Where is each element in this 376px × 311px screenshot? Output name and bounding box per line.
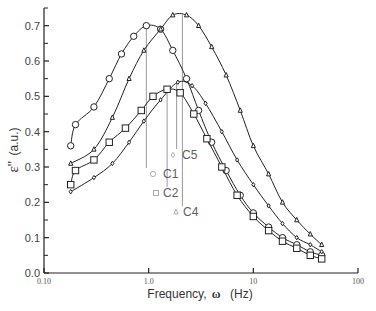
square-marker	[72, 167, 78, 173]
legend-item-c2: C2	[153, 186, 178, 200]
x-tick-label: 1.0	[144, 277, 154, 286]
x-tick-label: 10	[249, 277, 257, 286]
legend-label: C1	[163, 167, 179, 181]
square-marker	[250, 213, 256, 219]
y-tick-label: 0.2	[25, 196, 40, 208]
legend-label: C4	[183, 205, 199, 219]
y-ticks: 0.00.10.20.30.40.50.60.7	[25, 8, 49, 279]
circle-marker	[68, 143, 74, 149]
y-tick-label: 0.6	[25, 55, 40, 67]
diamond-marker	[171, 152, 175, 157]
circle-marker	[150, 171, 155, 176]
x-tick-label: 100	[352, 277, 364, 286]
square-marker	[164, 86, 170, 92]
triangle-marker	[174, 209, 178, 213]
circle-marker	[72, 121, 78, 127]
triangle-marker	[69, 161, 73, 165]
square-marker	[153, 190, 158, 195]
square-marker	[122, 125, 128, 131]
y-tick-label: 0.4	[25, 126, 40, 138]
x-axis-label-text: Frequency,	[147, 287, 206, 301]
legend-item-c5: C5	[171, 148, 197, 162]
triangle-marker	[171, 12, 175, 16]
triangle-marker	[251, 143, 255, 147]
square-marker	[319, 256, 325, 262]
y-tick-label: 0.1	[25, 232, 40, 244]
triangle-marker	[184, 12, 188, 16]
square-marker	[106, 139, 112, 145]
legend-item-c4: C4	[174, 205, 199, 219]
circle-marker	[106, 75, 112, 81]
diamond-marker	[309, 243, 312, 247]
circle-marker	[183, 75, 189, 81]
square-marker	[177, 90, 183, 96]
circle-marker	[143, 22, 149, 28]
series-c5	[69, 80, 323, 254]
series-c2	[68, 86, 325, 262]
diamond-marker	[69, 190, 72, 194]
square-marker	[68, 181, 74, 187]
square-marker	[265, 227, 271, 233]
x-tick-label: 0.10	[37, 277, 51, 286]
diamond-marker	[92, 175, 95, 179]
y-tick-label: 0.7	[25, 20, 40, 32]
x-axis-symbol: ω	[212, 287, 221, 301]
series-curve	[71, 81, 322, 252]
triangle-marker	[224, 73, 228, 77]
square-marker	[307, 252, 313, 258]
svg-text:ε'' (a.u.): ε'' (a.u.)	[5, 127, 21, 172]
y-tick-label: 0.3	[25, 161, 40, 173]
x-axis-label: Frequency, ω (Hz)	[147, 287, 252, 301]
circle-marker	[91, 104, 97, 110]
x-axis-unit: (Hz)	[230, 287, 253, 301]
legend-item-c1: C1	[150, 167, 178, 181]
y-tick-label: 0.5	[25, 90, 40, 102]
y-axis-unit: (a.u.)	[7, 127, 21, 155]
circle-marker	[131, 33, 137, 39]
legend-label: C2	[163, 186, 179, 200]
x-ticks: 0.101.010100	[37, 268, 364, 286]
circle-marker	[170, 47, 176, 53]
square-marker	[150, 93, 156, 99]
dielectric-loss-chart: 0.00.10.20.30.40.50.60.7 0.101.010100 C1…	[0, 0, 376, 311]
square-marker	[279, 238, 285, 244]
square-marker	[294, 245, 300, 251]
square-marker	[234, 192, 240, 198]
chart-svg: 0.00.10.20.30.40.50.60.7 0.101.010100 C1…	[0, 0, 376, 311]
square-marker	[204, 136, 210, 142]
series-layer	[68, 12, 325, 262]
inline-legend: C1C2C5C4	[150, 148, 198, 219]
diamond-marker	[295, 235, 298, 239]
legend-label: C5	[182, 148, 198, 162]
triangle-marker	[238, 108, 242, 112]
circle-marker	[118, 51, 124, 57]
square-marker	[219, 164, 225, 170]
square-marker	[191, 111, 197, 117]
square-marker	[138, 107, 144, 113]
square-marker	[91, 157, 97, 163]
y-axis-symbol: ε''	[5, 161, 21, 173]
y-axis-label: ε'' (a.u.)	[5, 127, 21, 172]
